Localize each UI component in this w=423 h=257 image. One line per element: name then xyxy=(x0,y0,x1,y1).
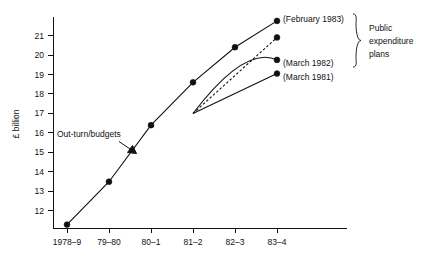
data-point-marker xyxy=(274,71,280,77)
y-tick-label: 17 xyxy=(35,108,45,118)
y-tick-label: 21 xyxy=(35,31,45,41)
y-tick-label: 12 xyxy=(35,206,45,216)
data-point-marker xyxy=(64,222,70,228)
y-tick-label: 19 xyxy=(35,70,45,80)
x-tick-label: 81–2 xyxy=(184,237,203,247)
x-tick-label: 83–4 xyxy=(268,237,287,247)
y-tick-label: 20 xyxy=(35,50,45,60)
x-tick-label: 79–80 xyxy=(97,237,121,247)
annotation-outturn-label: Out-turn/budgets xyxy=(57,129,121,139)
y-tick-label: 14 xyxy=(35,167,45,177)
data-point-marker xyxy=(190,79,196,85)
data-point-marker xyxy=(148,122,154,128)
y-tick-label: 18 xyxy=(35,89,45,99)
series-label-february-1983: (February 1983) xyxy=(283,14,344,24)
y-tick-label: 16 xyxy=(35,128,45,138)
series-label-march-1981: (March 1981) xyxy=(283,72,334,82)
data-point-marker xyxy=(274,35,280,41)
y-axis-title: £ billion xyxy=(11,109,21,138)
y-tick-label: 13 xyxy=(35,186,45,196)
x-tick-label: 82–3 xyxy=(226,237,245,247)
chart-container: 12131415161718192021 £ billion 1978–979–… xyxy=(0,0,423,257)
x-tick-label: 80–1 xyxy=(142,237,161,247)
brace-label-line-1: Public xyxy=(369,23,393,33)
series-label-march-1982: (March 1982) xyxy=(283,58,334,68)
y-tick-label: 15 xyxy=(35,147,45,157)
expenditure-line-chart: 12131415161718192021 £ billion 1978–979–… xyxy=(0,0,423,257)
data-point-marker xyxy=(274,57,280,63)
brace-label-line-3: plans xyxy=(369,49,389,59)
data-point-marker xyxy=(274,18,280,24)
data-point-marker xyxy=(106,179,112,185)
data-point-marker xyxy=(232,44,238,50)
x-tick-label: 1978–9 xyxy=(53,237,82,247)
brace-label-line-2: expenditure xyxy=(369,36,414,46)
